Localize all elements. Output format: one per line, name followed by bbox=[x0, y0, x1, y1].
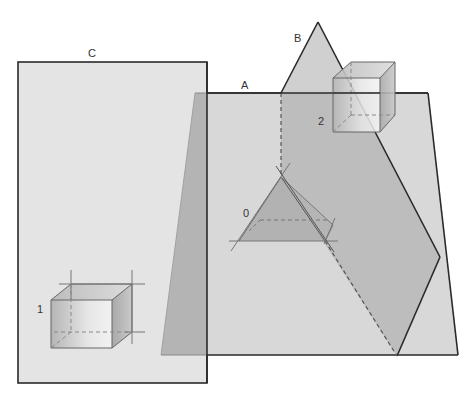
label-plane-c: C bbox=[88, 47, 96, 59]
label-plane-b: B bbox=[294, 32, 301, 44]
label-object-2: 2 bbox=[318, 115, 324, 127]
object-2-cube bbox=[333, 62, 395, 132]
label-plane-a: A bbox=[241, 79, 249, 91]
planes-diagram: C A B 0 1 2 bbox=[0, 0, 476, 399]
label-object-1: 1 bbox=[37, 303, 43, 315]
diagram-canvas: C A B 0 1 2 bbox=[0, 0, 476, 399]
label-object-0: 0 bbox=[243, 207, 249, 219]
